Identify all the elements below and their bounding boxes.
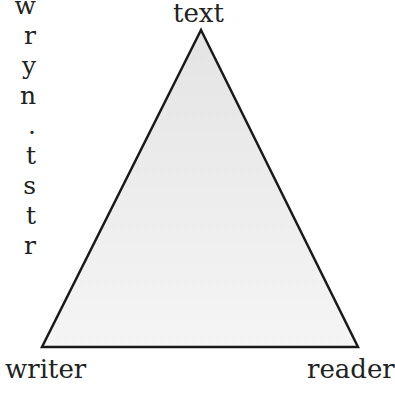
label-reader: reader [307, 354, 395, 384]
label-text: text [173, 0, 224, 28]
triangle-shape [42, 30, 358, 347]
label-writer: writer [5, 354, 86, 384]
